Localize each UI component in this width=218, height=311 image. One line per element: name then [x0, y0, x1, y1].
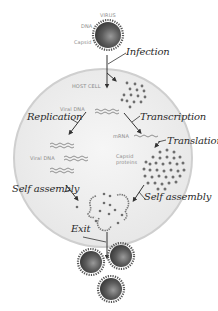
step-replication: Replication — [27, 111, 82, 122]
virus-icon — [93, 20, 123, 50]
capsid-label: Capsid — [74, 39, 92, 45]
host-cell-label: HOST CELL — [72, 83, 101, 89]
step-exit: Exit — [71, 223, 90, 234]
capsid-proteins-label-line2: proteins — [116, 159, 137, 165]
step-translation: Translation — [167, 135, 218, 146]
replicated-viral-dna-label: Viral DNA — [30, 155, 55, 161]
mrna-label: mRNA — [113, 133, 129, 139]
released-virus-icon — [108, 243, 134, 269]
released-virus-icon — [98, 276, 124, 302]
step-infection: Infection — [126, 46, 170, 57]
step-transcription: Transcription — [140, 111, 206, 122]
virus-label: VIRUS — [100, 12, 116, 18]
released-virus-icon — [78, 249, 104, 275]
step-self-assembly-left: Self assembly — [12, 183, 79, 194]
dna-label: DNA — [81, 23, 92, 29]
step-self-assembly-right: Self assembly — [144, 191, 211, 202]
